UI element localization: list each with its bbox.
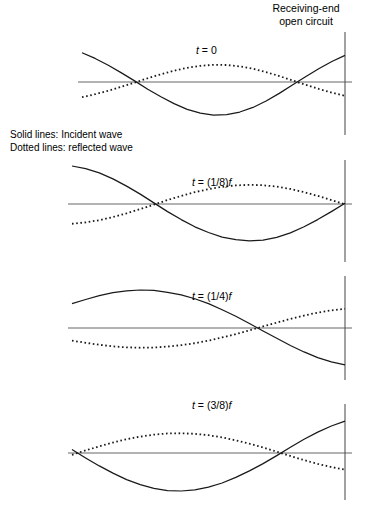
label-variable-f: f bbox=[228, 290, 231, 302]
wave-plot-svg bbox=[0, 0, 370, 509]
label-expression: = (3/8) bbox=[195, 399, 229, 411]
incident-wave-curve bbox=[82, 53, 345, 115]
incident-wave-curve bbox=[72, 421, 345, 491]
panel-label-t18: t = (1/8)f bbox=[192, 176, 231, 188]
panel-label-t0: t = 0 bbox=[196, 44, 217, 56]
reflected-wave-curve bbox=[82, 65, 345, 97]
panel-label-t14: t = (1/4)f bbox=[192, 290, 231, 302]
label-expression: = (1/8) bbox=[195, 176, 229, 188]
panel-label-t38: t = (3/8)f bbox=[192, 399, 231, 411]
label-variable-f: f bbox=[228, 399, 231, 411]
label-expression: = 0 bbox=[199, 44, 217, 56]
label-variable-f: f bbox=[228, 176, 231, 188]
wave-panel-panel-t38 bbox=[68, 404, 352, 500]
figure-root: Receiving-end open circuit Solid lines: … bbox=[0, 0, 370, 509]
label-expression: = (1/4) bbox=[195, 290, 229, 302]
